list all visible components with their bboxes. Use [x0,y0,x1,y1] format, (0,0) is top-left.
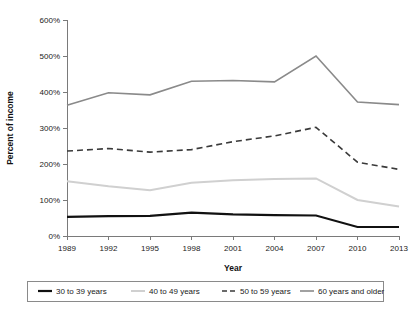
x-tick-label: 1998 [183,244,201,253]
chart-container: 0%100%200%300%400%500%600% 1989199219951… [0,0,410,310]
x-tick-label: 2010 [349,244,367,253]
line-chart: 0%100%200%300%400%500%600% 1989199219951… [0,0,410,310]
y-tick-label: 100% [40,196,60,205]
series-line-1 [67,178,399,206]
y-tick-label: 300% [40,124,60,133]
legend-label-0[interactable]: 30 to 39 years [56,287,107,296]
x-tick-label: 2001 [224,244,242,253]
y-axis: 0%100%200%300%400%500%600% [40,16,67,241]
legend-label-3[interactable]: 60 years and older [318,287,385,296]
x-tick-label: 1995 [141,244,159,253]
series-line-0 [67,213,399,227]
legend-label-2[interactable]: 50 to 59 years [240,287,291,296]
series-lines [67,56,399,227]
x-axis: 198919921995199820012004200720102013 [58,236,408,253]
series-line-2 [67,127,399,169]
y-tick-label: 0% [48,232,60,241]
x-tick-label: 2004 [266,244,284,253]
legend-label-1[interactable]: 40 to 49 years [149,287,200,296]
chart-legend: 30 to 39 years40 to 49 years50 to 59 yea… [27,281,385,301]
x-axis-title: Year [224,263,243,273]
x-tick-label: 2013 [390,244,408,253]
x-tick-label: 1992 [100,244,118,253]
x-tick-label: 1989 [58,244,76,253]
y-axis-title: Percent of income [5,91,15,165]
series-line-3 [67,56,399,105]
y-tick-label: 400% [40,88,60,97]
y-tick-label: 600% [40,16,60,25]
y-tick-label: 500% [40,52,60,61]
x-tick-label: 2007 [307,244,325,253]
y-tick-label: 200% [40,160,60,169]
